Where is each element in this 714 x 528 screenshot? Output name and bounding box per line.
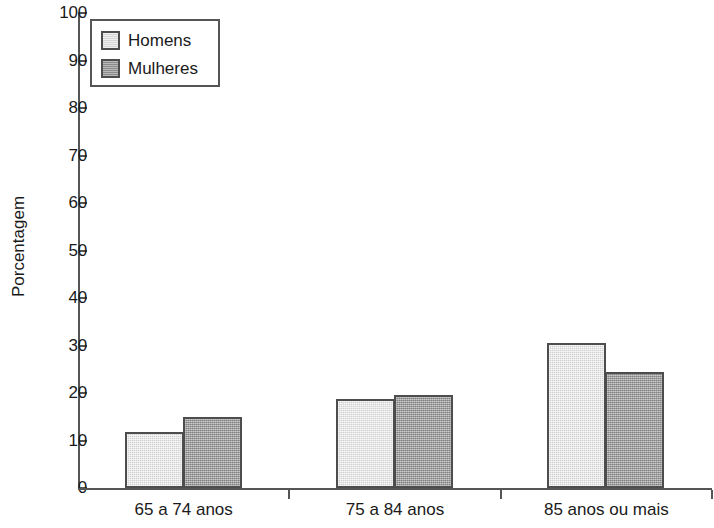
bar <box>547 343 606 488</box>
legend-swatch-mulheres-icon <box>101 59 120 78</box>
legend-swatch-homens-icon <box>101 31 120 50</box>
legend-item-homens: Homens <box>101 26 218 54</box>
legend: Homens Mulheres <box>90 19 220 87</box>
legend-label-mulheres: Mulheres <box>128 59 198 78</box>
bar <box>394 395 453 488</box>
legend-label-homens: Homens <box>128 31 191 50</box>
bar <box>336 399 395 488</box>
bar <box>183 417 242 488</box>
bar <box>605 372 664 488</box>
bar-chart: Porcentagem 0102030405060708090100 65 a … <box>0 0 714 528</box>
bar <box>125 432 184 488</box>
legend-item-mulheres: Mulheres <box>101 54 218 82</box>
